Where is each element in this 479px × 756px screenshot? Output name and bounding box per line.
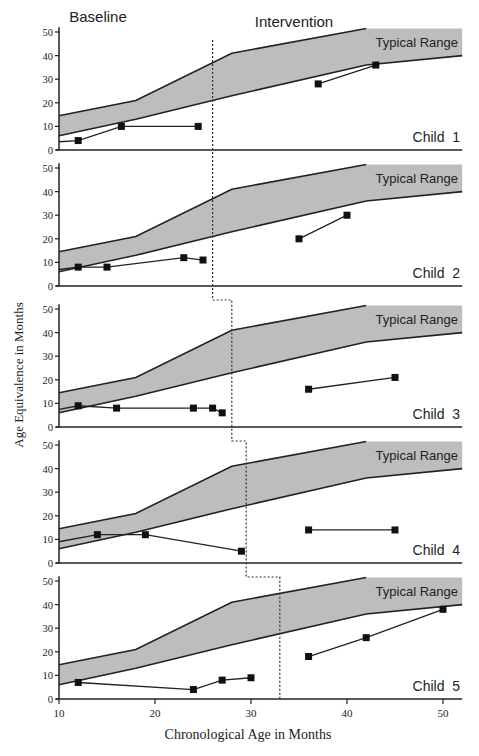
child-label: Child 5 — [413, 678, 461, 694]
y-tick-label: 20 — [43, 647, 54, 658]
baseline-header: Baseline — [69, 8, 127, 25]
panel-child-4: Typical Range01020304050Child 4 — [43, 440, 463, 569]
y-tick-label: 40 — [43, 600, 54, 611]
typical-range-label: Typical Range — [376, 584, 458, 599]
data-point — [75, 264, 82, 271]
data-point — [75, 679, 82, 686]
y-tick-label: 20 — [43, 375, 54, 386]
data-point — [315, 80, 322, 87]
x-axis-label: Chronological Age in Months — [165, 727, 332, 742]
data-point — [392, 374, 399, 381]
data-point — [180, 254, 187, 261]
y-tick-label: 50 — [43, 440, 54, 451]
data-point — [94, 531, 101, 538]
data-point — [104, 264, 111, 271]
y-tick-label: 10 — [43, 534, 54, 545]
y-tick-label: 0 — [48, 422, 53, 433]
data-point — [190, 405, 197, 412]
y-tick-label: 40 — [43, 464, 54, 475]
data-point — [200, 257, 207, 264]
child-label: Child 2 — [413, 265, 461, 281]
y-tick-label: 0 — [48, 694, 53, 705]
y-tick-label: 30 — [43, 74, 54, 85]
y-tick-label: 40 — [43, 328, 54, 339]
data-point — [372, 62, 379, 69]
data-point — [219, 409, 226, 416]
multiple-baseline-chart: Typical Range01020304050Child 1Typical R… — [0, 0, 479, 756]
y-tick-label: 10 — [43, 398, 54, 409]
child-label: Child 1 — [413, 129, 461, 145]
data-point — [75, 402, 82, 409]
data-point — [219, 677, 226, 684]
y-tick-label: 10 — [43, 257, 54, 268]
x-tick-label: 40 — [342, 707, 354, 719]
data-point — [392, 526, 399, 533]
data-point — [238, 548, 245, 555]
y-tick-label: 20 — [43, 98, 54, 109]
intervention-header: Intervention — [255, 13, 333, 30]
typical-range-label: Typical Range — [376, 35, 458, 50]
y-tick-label: 40 — [43, 187, 54, 198]
x-tick-label: 30 — [246, 707, 258, 719]
intervention-series — [299, 215, 347, 239]
y-tick-label: 10 — [43, 670, 54, 681]
data-point — [190, 686, 197, 693]
y-tick-label: 30 — [43, 623, 54, 634]
x-tick-label: 20 — [150, 707, 162, 719]
panel-child-1: Typical Range01020304050Child 1 — [43, 27, 463, 156]
data-point — [142, 531, 149, 538]
y-tick-label: 0 — [48, 558, 53, 569]
y-tick-label: 10 — [43, 121, 54, 132]
data-point — [248, 674, 255, 681]
panel-child-3: Typical Range01020304050Child 3 — [43, 304, 463, 433]
typical-range-label: Typical Range — [376, 448, 458, 463]
x-tick-label: 10 — [54, 707, 66, 719]
y-tick-label: 0 — [48, 281, 53, 292]
panel-child-5: Typical Range010203040501020304050Child … — [43, 576, 463, 719]
y-tick-label: 50 — [43, 576, 54, 587]
y-tick-label: 30 — [43, 210, 54, 221]
typical-range-label: Typical Range — [376, 312, 458, 327]
data-point — [296, 235, 303, 242]
y-tick-label: 20 — [43, 511, 54, 522]
y-tick-label: 50 — [43, 163, 54, 174]
panels: Typical Range01020304050Child 1Typical R… — [43, 27, 463, 719]
y-tick-label: 30 — [43, 351, 54, 362]
y-tick-label: 40 — [43, 51, 54, 62]
data-point — [118, 123, 125, 130]
data-point — [75, 137, 82, 144]
intervention-series — [309, 377, 395, 389]
y-tick-label: 50 — [43, 27, 54, 38]
data-point — [344, 212, 351, 219]
y-axis-label: Age Equivalence in Months — [11, 302, 26, 448]
y-tick-label: 20 — [43, 234, 54, 245]
panel-child-2: Typical Range01020304050Child 2 — [43, 163, 463, 292]
data-point — [305, 653, 312, 660]
y-tick-label: 30 — [43, 487, 54, 498]
data-point — [195, 123, 202, 130]
x-tick-label: 50 — [438, 707, 450, 719]
data-point — [113, 405, 120, 412]
y-tick-label: 50 — [43, 304, 54, 315]
data-point — [363, 634, 370, 641]
data-point — [305, 386, 312, 393]
data-point — [440, 606, 447, 613]
child-label: Child 4 — [413, 542, 461, 558]
child-label: Child 3 — [413, 406, 461, 422]
data-point — [209, 405, 216, 412]
data-point — [305, 526, 312, 533]
typical-range-label: Typical Range — [376, 171, 458, 186]
y-tick-label: 0 — [48, 145, 53, 156]
